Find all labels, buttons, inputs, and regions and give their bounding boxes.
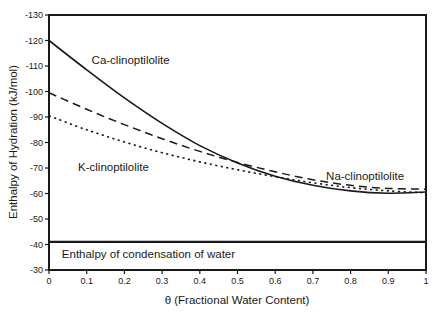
y-tick-label: -40 <box>30 240 43 250</box>
k-clinoptilolite-label: K-clinoptilolite <box>78 161 149 173</box>
y-tick-label: -120 <box>25 36 43 46</box>
chart-canvas: -130-120-110-100-90-80-70-60-50-40-3000.… <box>0 0 439 324</box>
y-tick-label: -30 <box>30 265 43 275</box>
enthalpy-of-condensation-of-water-label: Enthalpy of condensation of water <box>62 248 235 260</box>
y-tick-label: -110 <box>26 61 43 71</box>
y-axis-title: Enthalpy of Hydration (kJ/mol) <box>7 65 19 219</box>
enthalpy-hydration-figure: -130-120-110-100-90-80-70-60-50-40-3000.… <box>0 0 439 324</box>
x-tick-label: 0.9 <box>382 276 395 286</box>
x-tick-label: 1 <box>423 276 428 286</box>
y-tick-label: -80 <box>30 138 43 148</box>
x-tick-label: 0.8 <box>344 276 357 286</box>
y-tick-label: -60 <box>30 189 43 199</box>
x-axis-title: θ (Fractional Water Content) <box>165 294 310 306</box>
x-tick-label: 0 <box>46 276 51 286</box>
x-tick-label: 0.4 <box>194 276 207 286</box>
x-tick-label: 0.7 <box>307 276 320 286</box>
x-tick-label: 0.3 <box>156 276 169 286</box>
x-tick-label: 0.2 <box>118 276 131 286</box>
x-tick-label: 0.5 <box>231 276 244 286</box>
x-tick-label: 0.6 <box>269 276 282 286</box>
y-tick-label: -50 <box>30 214 43 224</box>
ca-clinoptilolite-label: Ca-clinoptilolite <box>92 54 170 66</box>
y-tick-label: -70 <box>30 163 43 173</box>
plot-frame <box>49 15 426 270</box>
y-tick-label: -100 <box>25 87 43 97</box>
y-tick-label: -90 <box>30 112 43 122</box>
y-tick-label: -130 <box>25 10 43 20</box>
na-clinoptilolite-label: Na-clinoptilolite <box>326 170 404 182</box>
x-tick-label: 0.1 <box>80 276 93 286</box>
